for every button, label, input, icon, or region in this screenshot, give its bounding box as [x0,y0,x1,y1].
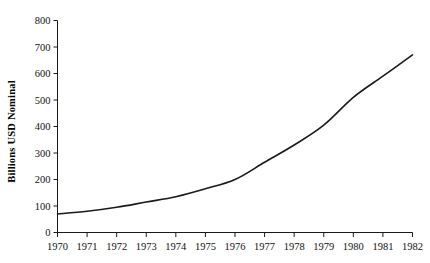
x-tick-label: 1982 [402,241,423,252]
x-axis-tick-labels: 1970197119721973197419751976197719781979… [47,241,423,252]
y-tick-label: 0 [45,227,50,238]
y-tick-label: 800 [35,15,51,26]
x-tick-label: 1978 [284,241,305,252]
x-axis-tick-marks [58,233,413,238]
x-tick-label: 1975 [195,241,216,252]
y-axis-tick-labels: 0100200300400500600700800 [35,15,51,238]
x-tick-label: 1980 [343,241,364,252]
x-tick-label: 1977 [254,241,275,252]
x-tick-label: 1976 [225,241,246,252]
x-tick-label: 1979 [313,241,334,252]
data-series-line [58,55,413,214]
x-tick-label: 1974 [165,241,187,252]
line-chart-plot: 0100200300400500600700800 19701971197219… [0,0,430,263]
x-tick-label: 1972 [106,241,127,252]
x-tick-label: 1970 [47,241,68,252]
y-tick-label: 200 [35,174,51,185]
y-tick-label: 100 [35,201,51,212]
x-tick-label: 1973 [136,241,157,252]
y-tick-label: 500 [35,95,51,106]
y-axis-tick-marks [54,21,58,233]
x-tick-label: 1981 [372,241,393,252]
y-tick-label: 600 [35,68,51,79]
y-tick-label: 300 [35,148,51,159]
x-tick-label: 1971 [77,241,98,252]
y-tick-label: 400 [35,121,51,132]
chart-container: Billions USD Nominal 0100200300400500600… [0,0,430,263]
y-tick-label: 700 [35,42,51,53]
